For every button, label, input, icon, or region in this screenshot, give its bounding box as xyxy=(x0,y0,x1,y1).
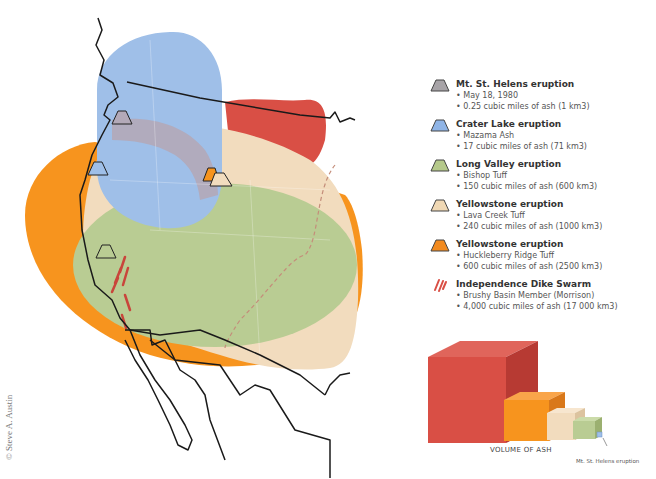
volcano-icon-gray xyxy=(430,78,450,92)
legend-detail: • 600 cubic miles of ash (2500 km3) xyxy=(456,261,656,272)
volume-axis-label: VOLUME OF ASH xyxy=(490,446,552,454)
legend-title: Crater Lake eruption xyxy=(456,118,656,130)
volcano-icon-orange xyxy=(430,238,450,252)
legend-detail: • 17 cubic miles of ash (71 km3) xyxy=(456,141,656,152)
legend-item-crater-lake: Crater Lake eruption • Mazama Ash • 17 c… xyxy=(428,118,656,152)
volcano-icon-tan xyxy=(430,198,450,212)
legend-title: Yellowstone eruption xyxy=(456,238,656,250)
legend-detail: • 150 cubic miles of ash (600 km3) xyxy=(456,181,656,192)
legend-detail: • 4,000 cubic miles of ash (17 000 km3) xyxy=(456,301,656,312)
legend-item-mt-st-helens: Mt. St. Helens eruption • May 18, 1980 •… xyxy=(428,78,656,112)
legend-title: Yellowstone eruption xyxy=(456,198,656,210)
ash-fall-map xyxy=(0,0,420,479)
legend-detail: • 0.25 cubic miles of ash (1 km3) xyxy=(456,101,656,112)
legend-detail: • Huckleberry Ridge Tuff xyxy=(456,250,656,261)
volcano-icon-green xyxy=(430,158,450,172)
legend-item-huckleberry-ridge: Yellowstone eruption • Huckleberry Ridge… xyxy=(428,238,656,272)
volcano-icon-blue xyxy=(430,118,450,132)
pointer-line xyxy=(603,438,607,446)
legend-detail: • May 18, 1980 xyxy=(456,90,656,101)
legend-detail: • Lava Creek Tuff xyxy=(456,210,656,221)
legend-item-lava-creek: Yellowstone eruption • Lava Creek Tuff •… xyxy=(428,198,656,232)
legend-title: Long Valley eruption xyxy=(456,158,656,170)
legend-title: Mt. St. Helens eruption xyxy=(456,78,656,90)
legend-item-long-valley: Long Valley eruption • Bishop Tuff • 150… xyxy=(428,158,656,192)
legend-detail: • Mazama Ash xyxy=(456,130,656,141)
legend-item-independence-dike: Independence Dike Swarm • Brushy Basin M… xyxy=(428,278,656,312)
photo-credit: © Steve A. Austin xyxy=(4,395,14,460)
map-legend: Mt. St. Helens eruption • May 18, 1980 •… xyxy=(428,78,656,318)
dike-swarm-icon xyxy=(430,278,450,292)
legend-detail: • 240 cubic miles of ash (1000 km3) xyxy=(456,221,656,232)
legend-detail: • Bishop Tuff xyxy=(456,170,656,181)
legend-title: Independence Dike Swarm xyxy=(456,278,656,290)
legend-detail: • Brushy Basin Member (Morrison) xyxy=(456,290,656,301)
cube-mt-st-helens xyxy=(597,432,602,437)
mt-st-helens-pointer-label: Mt. St. Helens eruption xyxy=(576,458,639,464)
